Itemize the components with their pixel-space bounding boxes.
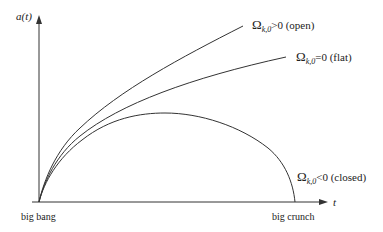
omega-symbol: Ω bbox=[252, 17, 262, 32]
label-closed: Ωk,0<0 (closed) bbox=[297, 170, 366, 183]
diagram-canvas bbox=[0, 0, 383, 232]
big-crunch-label: big crunch bbox=[272, 212, 315, 222]
description: (closed) bbox=[331, 171, 366, 183]
value: 0 bbox=[277, 19, 283, 31]
omega-subscript: k,0 bbox=[307, 177, 317, 186]
big-bang-label: big bang bbox=[21, 212, 56, 222]
curve-closed bbox=[39, 113, 295, 202]
description: (open) bbox=[286, 19, 315, 31]
x-axis-arrow-icon bbox=[319, 199, 328, 205]
scale-factor-diagram: a(t) t Ωk,0>0 (open) Ωk,0=0 (flat) Ωk,0<… bbox=[0, 0, 383, 232]
value: 0 bbox=[321, 51, 327, 63]
y-axis-arrow-icon bbox=[36, 15, 42, 24]
value: 0 bbox=[322, 171, 328, 183]
x-axis-label: t bbox=[333, 197, 336, 208]
label-flat: Ωk,0=0 (flat) bbox=[296, 50, 352, 63]
y-axis-label: a(t) bbox=[16, 11, 32, 22]
label-open: Ωk,0>0 (open) bbox=[252, 18, 314, 31]
omega-subscript: k,0 bbox=[306, 57, 316, 66]
omega-symbol: Ω bbox=[296, 49, 306, 64]
curve-flat bbox=[39, 57, 286, 202]
omega-subscript: k,0 bbox=[262, 25, 272, 34]
curve-open bbox=[39, 26, 243, 202]
omega-symbol: Ω bbox=[297, 169, 307, 184]
description: (flat) bbox=[330, 51, 352, 63]
